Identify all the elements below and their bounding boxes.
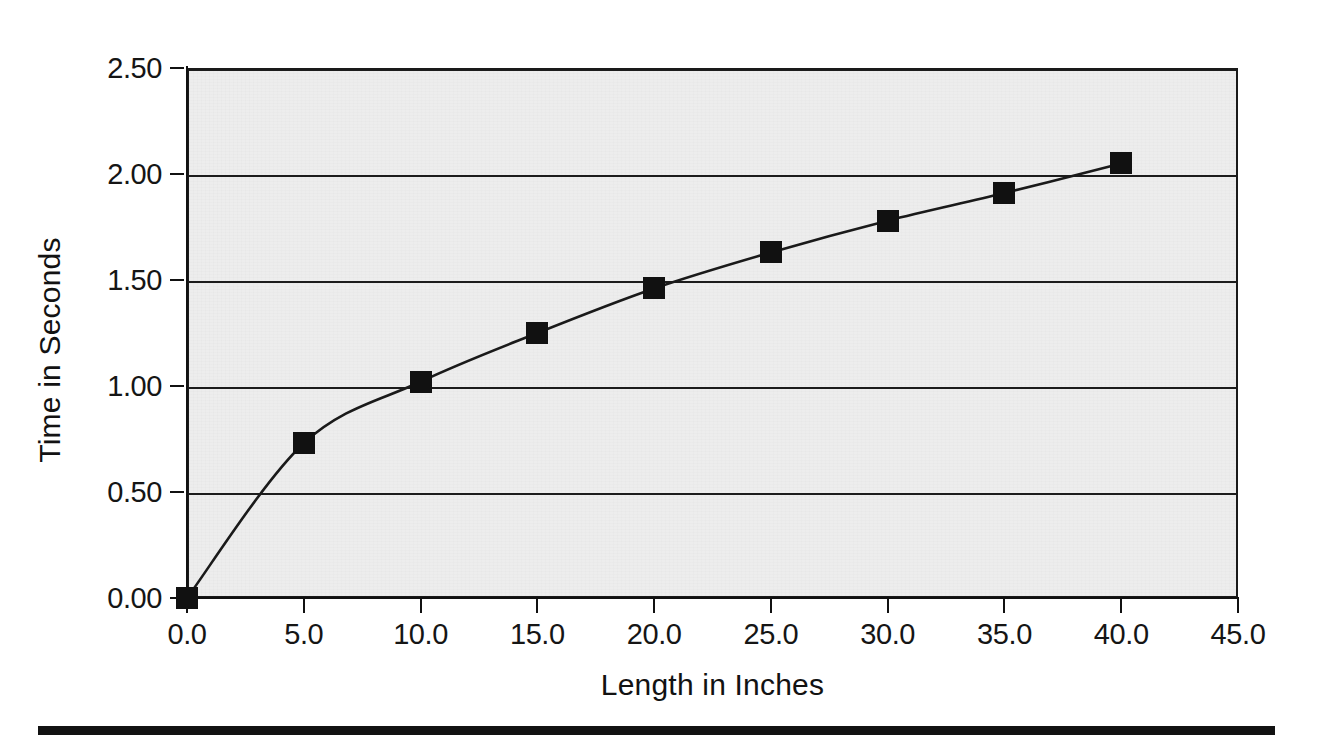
data-point-marker [410,371,432,393]
x-tick-label: 40.0 [1094,618,1149,651]
chart-figure: 0.000.501.001.502.002.50 0.05.010.015.02… [0,0,1324,700]
x-tick-label: 45.0 [1211,618,1266,651]
data-point-marker [526,322,548,344]
x-tick-mark [653,599,655,613]
y-axis-title: Time in Seconds [33,85,67,615]
y-axis-tick-marks [186,0,206,700]
x-tick-mark [420,599,422,613]
x-tick-label: 30.0 [860,618,915,651]
x-tick-mark [186,599,188,613]
y-tick-label: 2.00 [107,158,162,191]
x-tick-mark [1003,599,1005,613]
y-tick-label: 0.50 [107,476,162,509]
data-point-marker [760,241,782,263]
y-tick-label: 1.50 [107,264,162,297]
x-tick-label: 10.0 [393,618,448,651]
data-point-marker [1110,152,1132,174]
data-point-marker [993,182,1015,204]
x-tick-mark [303,599,305,613]
y-tick-label: 1.00 [107,370,162,403]
y-axis-tick-labels: 0.000.501.001.502.002.50 [0,0,186,700]
x-tick-mark [887,599,889,613]
series-path [187,163,1121,598]
x-tick-label: 35.0 [977,618,1032,651]
y-tick-mark [170,279,184,281]
y-tick-label: 2.50 [107,52,162,85]
x-tick-mark [536,599,538,613]
x-tick-label: 5.0 [284,618,323,651]
x-tick-label: 0.0 [167,618,206,651]
x-axis-title: Length in Inches [187,668,1238,702]
scanned-page: 0.000.501.001.502.002.50 0.05.010.015.02… [0,0,1324,740]
y-tick-mark [170,385,184,387]
data-point-marker [877,210,899,232]
x-axis-line [186,597,1239,599]
x-tick-label: 25.0 [743,618,798,651]
y-tick-label: 0.00 [107,582,162,615]
x-tick-mark [1237,599,1239,613]
y-tick-mark [170,597,184,599]
x-tick-mark [1120,599,1122,613]
y-tick-mark [170,173,184,175]
y-tick-mark [170,491,184,493]
data-point-marker [293,432,315,454]
data-point-marker [643,277,665,299]
y-tick-mark [170,67,184,69]
page-footer-rule [38,726,1275,735]
x-tick-label: 15.0 [510,618,565,651]
x-tick-label: 20.0 [627,618,682,651]
x-tick-mark [770,599,772,613]
